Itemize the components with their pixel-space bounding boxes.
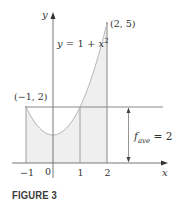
point-left-label: (−1, 2) [14,91,48,102]
point-right-marker [106,22,108,24]
x-axis-arrow-icon [161,161,168,166]
tick-label-2: 2 [105,167,111,178]
tick-label-neg1: −1 [20,167,34,178]
curve-equation-label: y = 1 + x2 [56,37,109,49]
tick-label-1: 1 [78,167,84,178]
x-axis-label: x [162,167,168,178]
favg-arrow-up-icon [127,108,131,114]
favg-label: fave = 2 [133,130,172,145]
tick-label-0: 0 [45,166,51,177]
y-axis-label: y [41,9,48,20]
point-right-label: (2, 5) [110,18,136,29]
y-axis-arrow-icon [51,12,56,19]
favg-arrow-down-icon [127,157,131,163]
figure-caption: FIGURE 3 [12,189,57,201]
figure-plot: y x (2, 5) (−1, 2) y = 1 + x2 fave = 2 −… [0,0,182,206]
point-left-marker [25,106,27,108]
